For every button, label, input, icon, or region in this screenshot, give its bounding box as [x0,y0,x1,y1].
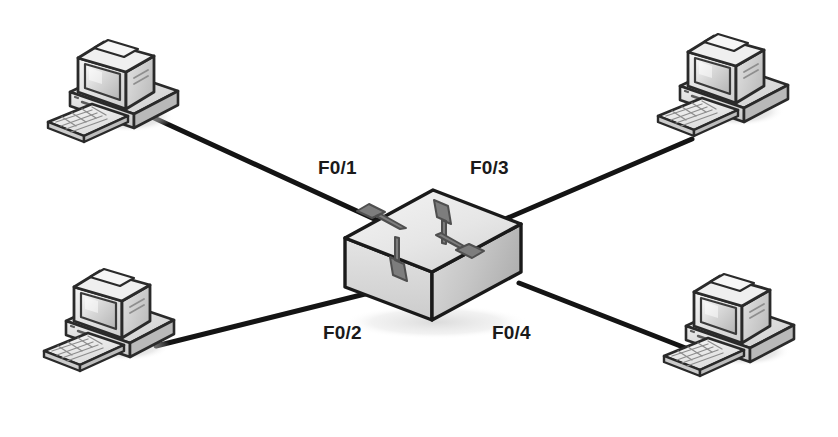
link-line-f03 [489,139,692,226]
port-label-f04: F0/4 [492,322,531,344]
host-pc-bottom-right[interactable] [664,274,794,376]
host-pc-top-left[interactable] [48,40,178,142]
port-label-f02: F0/2 [323,322,362,344]
host-pc-top-right[interactable] [658,34,788,136]
topology-canvas [0,0,838,437]
switch-icon[interactable] [344,190,528,339]
port-label-f03: F0/3 [470,157,509,179]
link-line-f04 [519,283,706,356]
network-topology-diagram: F0/1 F0/3 F0/2 F0/4 [0,0,838,437]
host-pc-bottom-left[interactable] [44,269,174,371]
port-label-f01: F0/1 [318,157,357,179]
